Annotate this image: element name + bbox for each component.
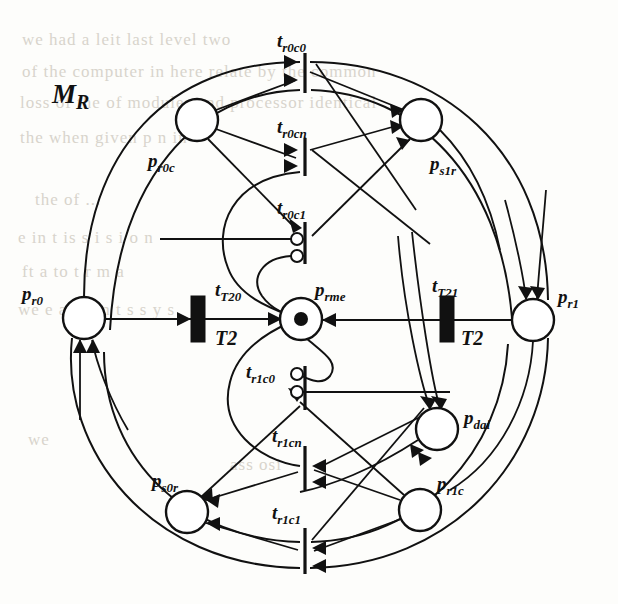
place-p_r1c[interactable]: [399, 489, 441, 531]
place-label-p_r1c: pr1c: [435, 473, 464, 498]
arrowhead: [312, 559, 326, 573]
place-p_r0[interactable]: [63, 297, 105, 339]
transition-label-t_T21: tT21: [432, 275, 458, 300]
arrowhead: [396, 137, 410, 150]
arc-tr0cn-to-ps1r: [310, 124, 403, 150]
figure-canvas: we had a leit last level twoof the compu…: [0, 0, 618, 604]
place-p_s1r[interactable]: [400, 99, 442, 141]
transition-t_T20[interactable]: [191, 296, 205, 342]
place-p_dai[interactable]: [416, 408, 458, 450]
transition-label-t_r0c0: tr0c0: [277, 30, 307, 55]
arrowhead: [418, 452, 432, 466]
arrowhead: [73, 339, 87, 353]
arc-cross-upper-a: [316, 64, 416, 210]
arc-tr1c0-to-ps0r: [200, 406, 300, 498]
place-p_r1[interactable]: [512, 299, 554, 341]
token-p_rme: [294, 312, 308, 326]
transition-label-t_r1c1: tr1c1: [272, 502, 301, 527]
arrowhead: [284, 55, 298, 69]
transition-t_T21[interactable]: [440, 296, 454, 342]
labels-layer: pr0cps1rpr0prmepr1pdaipr1cps0rtr0c0tr0cn…: [20, 30, 579, 527]
transition-label-t_r1c0: tr1c0: [246, 361, 276, 386]
arrowhead: [312, 541, 326, 555]
arc-into-pr1-top-b: [537, 190, 546, 299]
place-p_r0c[interactable]: [176, 99, 218, 141]
place-label-p_r1: pr1: [556, 286, 579, 311]
arrowhead: [86, 339, 100, 353]
arrowhead: [518, 286, 533, 300]
arrowhead: [206, 517, 220, 531]
place-label-p_s0r: ps0r: [150, 470, 179, 495]
inhibitor-arc-inh-r1c0-a: [291, 368, 303, 380]
arrowhead: [322, 313, 336, 327]
transition-label-t_r0cn: tr0cn: [277, 116, 307, 141]
arrowhead: [284, 143, 298, 157]
transition-class-label-t_T21: T2: [461, 327, 483, 349]
arc-ps1r-right: [440, 130, 500, 250]
place-label-p_r0: pr0: [20, 283, 44, 308]
arrowhead: [284, 159, 298, 173]
place-p_s0r[interactable]: [166, 491, 208, 533]
inhibitor-arc-inh-r0c1-a: [291, 233, 303, 245]
arc-cross-upper-b: [312, 150, 430, 244]
arc-pr1c-to-tr1c1: [314, 519, 401, 551]
place-label-p_rme: prme: [313, 279, 346, 304]
transition-label-t_r0c1: tr0c1: [277, 197, 306, 222]
arc-tr0c1-to-ps1r: [312, 139, 410, 236]
place-label-p_dai: pdai: [462, 407, 491, 432]
place-label-p_s1r: ps1r: [428, 153, 457, 178]
transition-label-t_r1cn: tr1cn: [272, 425, 302, 450]
inhibitor-arc-inh-r0c1-b: [291, 250, 303, 262]
arc-to-pdai-a: [398, 236, 430, 408]
arrowhead: [177, 312, 191, 326]
arrowhead: [284, 73, 298, 87]
petri-net-diagram: pr0cps1rpr0prmepr1pdaipr1cps0rtr0c0tr0cn…: [0, 0, 618, 604]
arc-tr0c0-to-pr1-outer: [310, 62, 548, 300]
transition-class-label-t_T20: T2: [215, 327, 237, 349]
inhibitor-arc-inh-r1c0-b: [291, 386, 303, 398]
arc-cross-lower-b: [318, 412, 430, 468]
figure-name-label: MR: [51, 79, 89, 113]
arc-tr1cn-to-ps0r: [206, 472, 298, 500]
arc-tr1c1-to-pr1-outer: [310, 338, 548, 568]
arc-into-pr0-bot-b: [92, 340, 128, 430]
transition-label-t_T20: tT20: [215, 279, 242, 304]
places-layer: [63, 99, 554, 533]
